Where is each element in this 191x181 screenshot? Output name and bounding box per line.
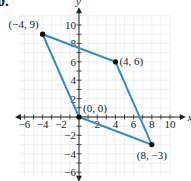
y-tick-label: 6	[71, 56, 77, 68]
x-tick-label: −6	[19, 118, 31, 130]
y-tick-label: 4	[71, 74, 77, 86]
data-point	[76, 114, 81, 119]
x-axis-label: x	[187, 111, 191, 123]
data-point	[40, 32, 45, 37]
data-point	[113, 59, 118, 64]
coordinate-plane: xy −6−4−2246810−6−4−2246810 (−4, 9)(4, 6…	[0, 0, 191, 181]
x-tick-label: 6	[131, 118, 137, 130]
y-tick-label: −4	[64, 148, 76, 160]
data-point	[149, 142, 154, 147]
x-tick-label: 8	[149, 118, 155, 130]
y-axis-arrow-down-icon	[76, 176, 82, 181]
x-tick-label: −2	[55, 118, 67, 130]
point-label: (8, −3)	[137, 149, 167, 162]
point-label: (4, 6)	[119, 55, 143, 68]
y-tick-label: 10	[65, 19, 77, 31]
y-axis-arrow-icon	[76, 7, 82, 13]
x-tick-label: 4	[113, 118, 119, 130]
x-axis-arrow-icon	[180, 114, 186, 120]
y-tick-label: −2	[64, 129, 76, 141]
point-label: (−4, 9)	[9, 18, 39, 31]
y-axis-label: y	[75, 0, 81, 7]
x-tick-label: −4	[37, 118, 49, 130]
point-label: (0, 0)	[83, 102, 107, 115]
y-tick-label: −6	[64, 166, 76, 178]
x-tick-label: 10	[165, 118, 177, 130]
